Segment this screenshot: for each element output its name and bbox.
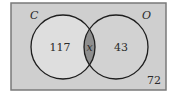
set-o-label: O xyxy=(142,9,151,22)
set-c-label: C xyxy=(30,9,39,22)
set-c-only-value: 117 xyxy=(50,41,71,54)
intersection-value: x xyxy=(86,41,93,54)
universe-outside-value: 72 xyxy=(147,74,161,87)
set-o-only-value: 43 xyxy=(114,41,128,54)
venn-diagram: C O 117 x 43 72 xyxy=(0,0,176,98)
